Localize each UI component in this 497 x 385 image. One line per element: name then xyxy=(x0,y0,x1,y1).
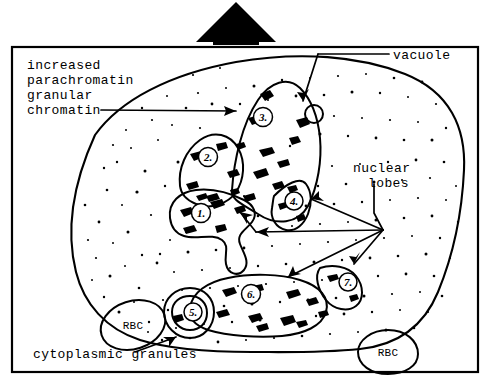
figure-canvas: 3. 2. 1. xyxy=(0,0,497,385)
lobe-number-3: 3. xyxy=(258,111,267,123)
nuclear-lobe-7: 7. xyxy=(317,266,362,309)
rbc-right-label: RBC xyxy=(378,347,399,359)
nuclear-lobe-1: 1. xyxy=(170,190,255,274)
lobe-number-1: 1. xyxy=(197,207,205,219)
chromatin-label-line-1: increased xyxy=(27,58,101,73)
vacuole-structure xyxy=(305,105,323,123)
lobe-number-5: 5. xyxy=(189,306,197,318)
lobe-number-4: 4. xyxy=(289,195,298,207)
nuclear-lobes-label: nuclear lobes xyxy=(353,161,410,191)
chromatin-label: increased parachromatin granular chromat… xyxy=(27,58,134,118)
nuclear-lobes-label-line-1: nuclear xyxy=(353,161,410,176)
chromatin-label-line-4: chromatin xyxy=(27,103,101,118)
rbc-right: RBC xyxy=(358,330,418,374)
neutrophil-diagram: 3. 2. 1. xyxy=(0,0,497,385)
rbc-left-label: RBC xyxy=(123,320,144,332)
vacuole-label: vacuole xyxy=(393,48,450,63)
nuclear-lobe-5: 5. xyxy=(164,288,214,338)
nuclear-lobes-label-line-2: lobes xyxy=(368,176,409,191)
lobe-number-6: 6. xyxy=(247,288,255,300)
cytoplasmic-granules-label: cytoplasmic granules xyxy=(33,347,197,362)
lobe-number-7: 7. xyxy=(344,276,352,288)
up-arrow-marker xyxy=(196,2,276,45)
vacuole-leader-arrow xyxy=(297,54,389,101)
chromatin-label-line-3: granular xyxy=(27,88,93,103)
chromatin-label-line-2: parachromatin xyxy=(27,73,134,88)
lobe-number-2: 2. xyxy=(203,151,212,163)
